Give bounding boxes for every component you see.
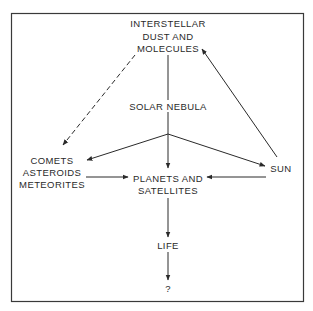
node-comets-line2: ASTEROIDS: [23, 167, 82, 178]
edge-sun-to-interstellar: [202, 49, 277, 157]
node-comets-line1: COMETS: [30, 155, 73, 166]
edge-nebula-to-comets: [87, 134, 168, 160]
node-solar-nebula: SOLAR NEBULA: [129, 101, 207, 112]
node-life: LIFE: [157, 240, 179, 251]
node-interstellar-line1: INTERSTELLAR: [130, 18, 206, 29]
node-planets-line2: SATELLITES: [138, 185, 198, 196]
node-interstellar-line3: MOLECULES: [137, 43, 199, 54]
evolution-flow-diagram: INTERSTELLAR DUST AND MOLECULES SOLAR NE…: [0, 0, 313, 311]
node-unknown: ?: [165, 283, 171, 294]
node-planets-line1: PLANETS AND: [133, 173, 203, 184]
node-sun: SUN: [270, 163, 291, 174]
edge-nebula-to-sun: [168, 134, 265, 166]
node-interstellar-line2: DUST AND: [142, 31, 193, 42]
edge-interstellar-to-comets-dashed: [63, 55, 135, 145]
node-comets-line3: METEORITES: [19, 179, 85, 190]
